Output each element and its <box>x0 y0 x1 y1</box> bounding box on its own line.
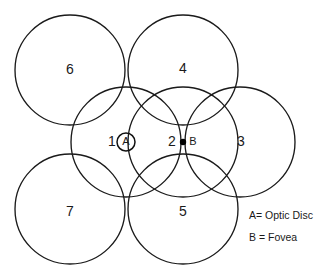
sector-label-4: 4 <box>179 60 187 76</box>
fovea-letter: B <box>189 135 196 147</box>
sector-label-2: 2 <box>168 133 176 149</box>
optic-disc-marker-group: 1 A <box>108 133 135 151</box>
diagram-canvas: 3 4 5 6 7 1 A 2 B A= Optic Disc B = Fove… <box>0 0 333 279</box>
retina-sector-diagram: 3 4 5 6 7 1 A 2 B A= Optic Disc B = Fove… <box>0 0 333 279</box>
legend-item-fovea: B = Fovea <box>249 231 297 243</box>
sector-circles-group <box>15 15 295 264</box>
sector-label-3: 3 <box>237 133 245 149</box>
sector-label-5: 5 <box>179 203 187 219</box>
optic-disc-letter: A <box>122 135 130 147</box>
sector-label-6: 6 <box>66 61 74 77</box>
sector-labels-group: 3 4 5 6 7 <box>66 60 245 219</box>
fovea-dot-icon <box>180 139 186 145</box>
sector-label-7: 7 <box>66 203 74 219</box>
legend-item-optic-disc: A= Optic Disc <box>249 209 313 221</box>
legend: A= Optic Disc B = Fovea <box>249 209 313 243</box>
fovea-marker-group: 2 B <box>168 133 197 149</box>
sector-label-1: 1 <box>108 133 116 149</box>
